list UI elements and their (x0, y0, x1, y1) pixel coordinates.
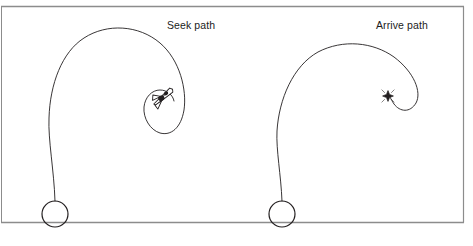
seek-vehicle-icon (150, 86, 178, 110)
figure-container: Seek path Arrive path (0, 0, 473, 246)
seek-panel (42, 28, 185, 227)
arrive-trajectory-path (277, 44, 418, 201)
steering-behaviour-diagram (0, 0, 473, 246)
arrive-path-label: Arrive path (376, 19, 428, 31)
seek-trajectory-path (49, 28, 185, 201)
arrive-panel (269, 44, 418, 227)
seek-path-label: Seek path (167, 19, 215, 31)
arrive-target-icon (382, 90, 395, 103)
